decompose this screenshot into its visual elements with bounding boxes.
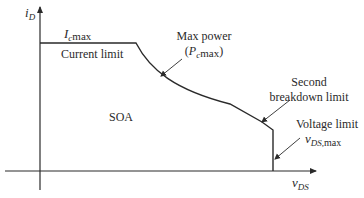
max-power-paren-close: ) bbox=[219, 44, 223, 58]
x-axis-label: vDS bbox=[292, 176, 309, 189]
vds-max-label: vDS,max bbox=[305, 132, 341, 145]
soa-diagram: iD Icmax Current limit Max power (Pcmax)… bbox=[0, 0, 364, 198]
vds-max-symbol: v bbox=[305, 131, 311, 146]
second-breakdown-label: Second breakdown limit bbox=[264, 76, 354, 103]
x-axis-symbol: v bbox=[292, 175, 298, 190]
current-limit-label: Current limit bbox=[61, 48, 123, 60]
y-axis-subscript: D bbox=[29, 12, 36, 22]
voltage-limit-pointer bbox=[275, 138, 300, 159]
max-power-suffix: max bbox=[200, 47, 219, 59]
max-power-line2: (Pcmax) bbox=[176, 45, 232, 57]
voltage-limit-label: Voltage limit bbox=[296, 118, 358, 130]
current-max-label: Icmax bbox=[64, 27, 91, 40]
current-max-suffix: max bbox=[72, 30, 91, 42]
max-power-pointer bbox=[161, 59, 182, 76]
vds-max-suffix: max bbox=[324, 137, 341, 148]
soa-boundary bbox=[40, 43, 273, 171]
vds-max-subscript: DS, bbox=[311, 138, 324, 148]
max-power-label: Max power (Pcmax) bbox=[176, 30, 232, 57]
max-power-line1: Max power bbox=[176, 30, 232, 42]
second-breakdown-line1: Second bbox=[264, 76, 354, 88]
second-breakdown-line2: breakdown limit bbox=[264, 91, 354, 103]
y-axis-label: iD bbox=[25, 6, 35, 19]
soa-label: SOA bbox=[109, 111, 133, 123]
x-axis-subscript: DS bbox=[298, 182, 309, 192]
